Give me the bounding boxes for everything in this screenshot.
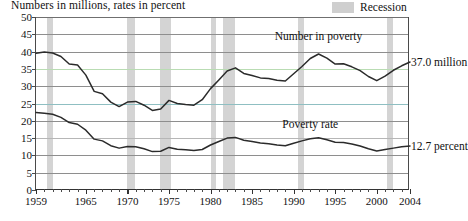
series-annotation: Number in poverty: [275, 30, 363, 42]
series-container: [36, 17, 410, 190]
y-axis-tick-label: 40: [21, 46, 32, 58]
y-axis-tick-label: 5: [27, 167, 33, 179]
plot-area: 0510152025303540455019591965197019751980…: [35, 17, 409, 190]
x-axis-tick-label: 2000: [366, 195, 388, 207]
y-axis-tick-label: 15: [21, 132, 32, 144]
x-axis-tick: [410, 189, 411, 194]
y-axis-tick-label: 25: [21, 98, 32, 110]
x-axis-tick-label: 1975: [158, 195, 180, 207]
series-annotation: Poverty rate: [282, 118, 338, 130]
series-end-label: 37.0 million: [411, 56, 467, 68]
x-axis-tick-label: 1965: [75, 195, 97, 207]
y-axis-tick-label: 20: [21, 115, 32, 127]
plot-inner: 0510152025303540455019591965197019751980…: [36, 17, 408, 189]
y-axis-tick-label: 10: [21, 149, 32, 161]
chart-legend: Recession: [332, 1, 407, 13]
x-axis-tick-label: 1970: [116, 195, 138, 207]
y-axis-tick-label: 50: [21, 11, 32, 23]
y-axis-tick-label: 45: [21, 28, 32, 40]
x-axis-tick-label: 1985: [241, 195, 263, 207]
x-axis-tick-label: 1959: [25, 195, 47, 207]
recession-legend-swatch: [332, 2, 354, 13]
recession-legend-label: Recession: [360, 1, 407, 13]
series-line: [36, 112, 410, 151]
y-axis-tick-label: 30: [21, 80, 32, 92]
x-axis-tick-label: 2004: [399, 195, 421, 207]
series-line: [36, 52, 410, 110]
x-axis-tick-label: 1990: [283, 195, 305, 207]
series-end-label: 12.7 percent: [411, 140, 468, 152]
x-axis-tick-label: 1995: [324, 195, 346, 207]
y-axis-tick-label: 35: [21, 63, 32, 75]
x-axis-tick-label: 1980: [200, 195, 222, 207]
chart-footnote: [120, 213, 463, 221]
chart-title: Numbers in millions, rates in percent: [11, 0, 185, 11]
